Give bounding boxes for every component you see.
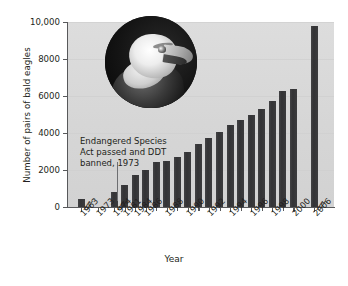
y-axis-tick-label: 10,000 <box>2 17 60 27</box>
y-axis-line <box>67 22 68 208</box>
y-axis-tick-label: 8000 <box>2 54 60 64</box>
y-axis-tick-labels: 0200040006000800010,000 <box>0 0 60 286</box>
bar <box>269 101 276 207</box>
bar <box>237 120 244 207</box>
y-axis-tick <box>63 96 67 97</box>
y-axis-tick <box>63 133 67 134</box>
bald-eagle-bar-chart: Number of pairs of bald eagles Endangere… <box>0 0 348 286</box>
x-axis-title: Year <box>0 254 348 264</box>
annotation-line-3: banned, 1973 <box>80 158 192 169</box>
bar <box>227 125 234 207</box>
y-axis-tick-label: 4000 <box>2 128 60 138</box>
annotation-line-2: Act passed and DDT <box>80 147 192 158</box>
bald-eagle-photo-inset <box>105 16 197 108</box>
eagle-eye <box>158 46 166 52</box>
bar <box>279 91 286 207</box>
y-axis-tick <box>63 207 67 208</box>
annotation-marker-line <box>117 162 118 201</box>
y-axis-tick-label: 2000 <box>2 165 60 175</box>
bar <box>205 138 212 207</box>
y-axis-tick <box>63 22 67 23</box>
y-axis-tick <box>63 59 67 60</box>
bar <box>248 115 255 208</box>
bar <box>311 26 318 207</box>
annotation-text: Endangered Species Act passed and DDT ba… <box>80 136 192 170</box>
y-axis-tick <box>63 170 67 171</box>
annotation-line-1: Endangered Species <box>80 136 192 147</box>
bar <box>290 89 297 207</box>
bar <box>258 109 265 207</box>
y-axis-tick-label: 6000 <box>2 91 60 101</box>
y-axis-tick-label: 0 <box>2 202 60 212</box>
